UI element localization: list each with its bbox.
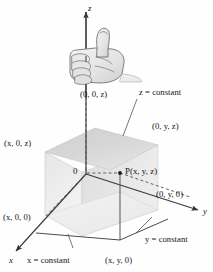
origin-label: 0 bbox=[73, 167, 77, 176]
x-axis-label: x bbox=[9, 256, 13, 265]
leader-y-constant bbox=[136, 217, 152, 233]
point-P-marker bbox=[118, 171, 122, 175]
leader-z-constant bbox=[123, 99, 137, 136]
hand-wrist bbox=[120, 74, 142, 82]
y-axis-label: y bbox=[203, 207, 207, 216]
label-xy-corner: (x, y, 0) bbox=[105, 256, 132, 265]
right-hand-thumbs-up-icon bbox=[70, 28, 142, 84]
figure-canvas bbox=[0, 0, 213, 272]
hand-finger-4 bbox=[75, 75, 92, 85]
coordinate-system-figure: z (0, 0, z) z = constant (0, y, z) (x, 0… bbox=[0, 0, 213, 272]
label-z-intercept: (0, 0, z) bbox=[80, 90, 107, 99]
label-yz-corner: (0, y, z) bbox=[152, 122, 179, 131]
label-z-constant: z = constant bbox=[139, 88, 181, 97]
label-y-constant: y = constant bbox=[145, 235, 188, 244]
point-P-label: P(x, y, z) bbox=[125, 167, 157, 176]
base-edge-left bbox=[36, 233, 120, 240]
label-xz-corner: (x, 0, z) bbox=[4, 139, 31, 148]
label-x-constant: x = constant bbox=[27, 256, 70, 265]
hand-thumb bbox=[97, 28, 110, 57]
z-axis-label: z bbox=[88, 4, 91, 13]
label-y-intercept: (0, y, 0) bbox=[156, 190, 183, 199]
label-x-intercept: (x, 0, 0) bbox=[3, 213, 31, 222]
